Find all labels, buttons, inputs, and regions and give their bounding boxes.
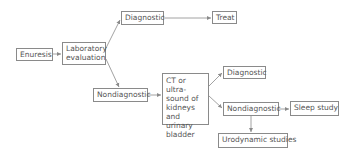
node-ct-ultrasound: CT or ultra- sound of kidneys and urinar… bbox=[162, 73, 209, 125]
node-label: Diagnostic bbox=[125, 13, 165, 22]
node-label: and urinary bbox=[166, 112, 205, 130]
node-label: Laboratory bbox=[66, 44, 102, 53]
node-enuresis: Enuresis bbox=[16, 48, 53, 61]
node-label: Enuresis bbox=[20, 50, 52, 59]
edge-lab-diag bbox=[106, 20, 120, 48]
node-diagnostic-right: Diagnostic bbox=[223, 66, 266, 79]
node-label: sound of bbox=[166, 94, 205, 103]
node-label: evaluation bbox=[66, 53, 102, 62]
edge-ct-diag bbox=[209, 73, 222, 86]
node-label: Nondiagnostic bbox=[97, 90, 151, 99]
edge-ct-nondiag bbox=[209, 96, 222, 108]
node-nondiagnostic-left: Nondiagnostic bbox=[93, 88, 148, 102]
node-nondiagnostic-right: Nondiagnostic bbox=[223, 102, 279, 116]
node-treat: Treat bbox=[212, 11, 237, 24]
node-urodynamic-studies: Urodynamic studies bbox=[218, 133, 288, 148]
edge-lab-nondiag bbox=[106, 59, 119, 87]
node-label: Nondiagnostic bbox=[227, 104, 281, 113]
node-diagnostic-top: Diagnostic bbox=[121, 11, 164, 25]
node-label: kidneys bbox=[166, 103, 205, 112]
node-label: Diagnostic bbox=[227, 68, 267, 77]
node-label: Urodynamic studies bbox=[222, 135, 296, 144]
node-laboratory-evaluation: Laboratory evaluation bbox=[62, 42, 106, 65]
node-label: bladder bbox=[166, 130, 205, 139]
node-sleep-study: Sleep study bbox=[290, 101, 339, 116]
node-label: CT or ultra- bbox=[166, 76, 205, 94]
node-label: Sleep study bbox=[294, 103, 338, 112]
node-label: Treat bbox=[216, 13, 235, 22]
